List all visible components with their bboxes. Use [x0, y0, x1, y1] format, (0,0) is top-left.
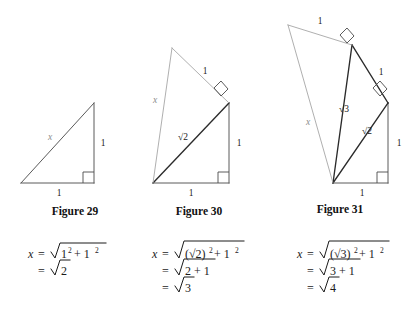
- eq30-line2-equals: =: [162, 264, 169, 278]
- eq29-line1-exponent-1: 2: [68, 246, 72, 255]
- eq30-line1-equals: =: [162, 247, 169, 261]
- figure-30-label-outer-leg: 1: [203, 66, 208, 76]
- figure-31-right-angle-marker-upper: [340, 28, 354, 43]
- figure-29-caption: Figure 29: [52, 205, 99, 218]
- equation-29-group: x = 1 2 + 1 2 = 2: [27, 243, 106, 278]
- figure-29-label-x: x: [47, 132, 53, 142]
- figure-31-label-mid-leg: 1: [379, 67, 384, 77]
- eq30-line1-lhs: x: [151, 247, 158, 261]
- eq31-line1-exponent-1: 2: [354, 246, 358, 255]
- equation-31-group: x = (√3) 2 + 1 2 = 3 + 1 = 4: [296, 241, 389, 295]
- figure-29-group: x 1 1 Figure 29: [21, 103, 106, 218]
- figure-30-group: x 1 √2 1 1 Figure 30: [152, 48, 242, 218]
- eq31-line2-equals: =: [307, 264, 314, 278]
- figure-31-label-x: x: [305, 117, 311, 127]
- figure-31-hypotenuse-sqrt2: [333, 103, 388, 183]
- eq31-line1-equals: =: [307, 247, 314, 261]
- figure-30-right-angle-marker-base: [218, 172, 229, 183]
- figure-30-label-base: 1: [189, 188, 194, 198]
- eq29-line1-equals: =: [38, 247, 45, 261]
- figure-30-right-angle-marker-upper: [214, 81, 228, 96]
- figure-31-label-sqrt2: √2: [362, 126, 372, 136]
- eq30-line1-exponent-2: 2: [235, 246, 239, 255]
- eq30-line2-radicand: 2 + 1: [185, 264, 210, 278]
- eq30-line1-plus-term: + 1: [214, 247, 230, 261]
- figure-31-hypotenuse-sqrt3: [333, 45, 352, 183]
- figure-31-label-vertical-leg: 1: [397, 138, 402, 148]
- equation-30-group: x = (√2) 2 + 1 2 = 2 + 1 = 3: [151, 241, 244, 295]
- figure-31-right-angle-marker-base: [377, 172, 388, 183]
- eq29-line2-equals: =: [38, 264, 45, 278]
- eq31-line1-plus-term: + 1: [359, 247, 375, 261]
- eq30-line3-radicand: 3: [185, 281, 191, 295]
- eq31-line3-equals: =: [307, 281, 314, 295]
- eq31-line3-radicand: 4: [330, 281, 336, 295]
- eq29-line1-radicand: 1: [61, 247, 67, 261]
- eq31-line1-lhs: x: [296, 247, 303, 261]
- eq29-line1-lhs: x: [27, 247, 34, 261]
- figure-30-inner-hypotenuse-sqrt2: [153, 103, 229, 183]
- figure-30-caption: Figure 30: [176, 205, 223, 218]
- figure-29-label-base: 1: [57, 188, 62, 198]
- eq29-line1-plus-term: + 1: [74, 247, 90, 261]
- figure-30-outer-hypotenuse-x: [153, 48, 172, 183]
- figure-31-outer-leg-one: [288, 25, 352, 45]
- eq31-line1-exponent-2: 2: [380, 246, 384, 255]
- figure-30-label-vertical-leg: 1: [237, 138, 242, 148]
- figure-31-caption: Figure 31: [317, 203, 364, 216]
- figure-29-right-angle-marker: [83, 172, 94, 183]
- eq29-line2-radicand: 2: [61, 264, 67, 278]
- eq29-line1-exponent-2: 2: [95, 246, 99, 255]
- figure-30-label-x: x: [152, 95, 158, 105]
- figure-31-label-outer-leg: 1: [318, 16, 323, 26]
- figure-31-group: x 1 √3 1 √2 1 1 Figure 31: [288, 16, 402, 216]
- figure-31-outer-hypotenuse-x: [288, 25, 333, 183]
- figure-30-label-sqrt2: √2: [178, 132, 188, 142]
- eq30-line3-equals: =: [162, 281, 169, 295]
- figure-31-label-base: 1: [360, 188, 365, 198]
- eq30-line1-exponent-1: 2: [209, 246, 213, 255]
- figures-and-equations-board: x 1 1 Figure 29 x 1 √2 1 1 Figure 30 x 1…: [0, 0, 420, 324]
- eq31-line2-radicand: 3 + 1: [330, 264, 355, 278]
- figure-29-label-vertical-leg: 1: [101, 138, 106, 148]
- figure-29-hypotenuse: [21, 103, 94, 183]
- figure-31-label-sqrt3: √3: [339, 104, 349, 114]
